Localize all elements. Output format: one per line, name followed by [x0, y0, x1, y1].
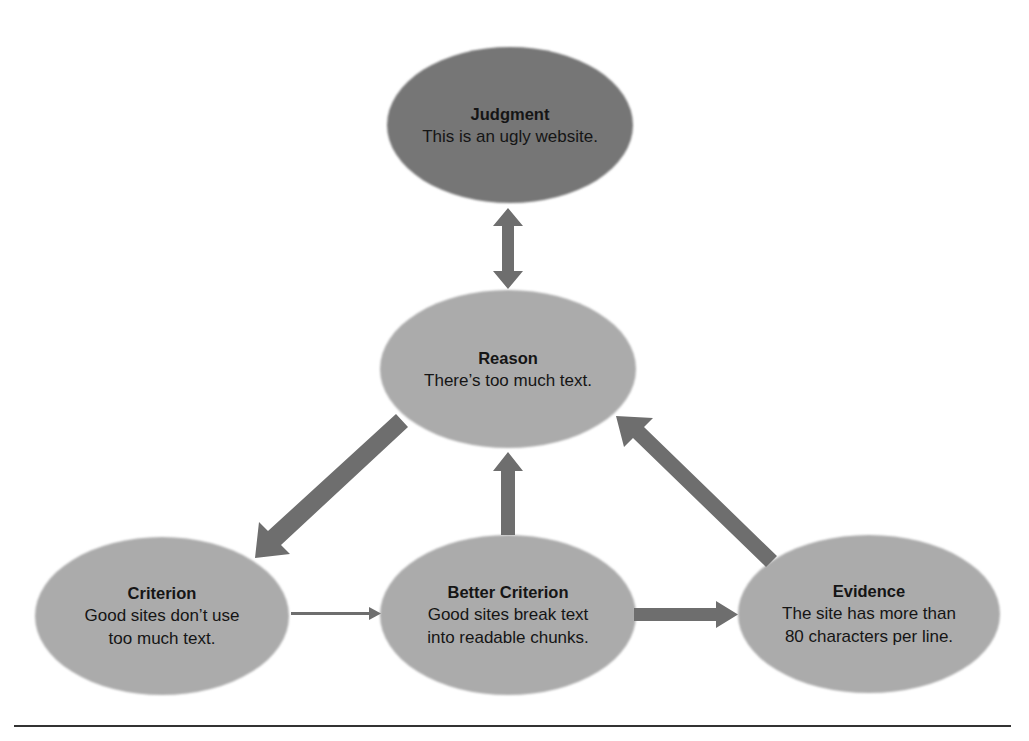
better-criterion-title: Better Criterion: [447, 581, 568, 603]
arrow-criterion-to-better-icon: [291, 607, 381, 620]
bottom-divider: [14, 725, 1011, 727]
evidence-text-line-1: The site has more than: [782, 602, 956, 625]
better-criterion-text-line-2: into readable chunks.: [427, 626, 589, 649]
evidence-text-line-2: 80 characters per line.: [785, 625, 953, 648]
evidence-node: Evidence The site has more than 80 chara…: [738, 535, 1000, 693]
better-criterion-node: Better Criterion Good sites break text i…: [380, 535, 636, 695]
judgment-node: Judgment This is an ugly website.: [387, 47, 633, 203]
judgment-text: This is an ugly website.: [422, 125, 598, 148]
criterion-text-line-2: too much text.: [109, 627, 216, 650]
reason-title: Reason: [478, 347, 538, 369]
criterion-node: Criterion Good sites don’t use too much …: [35, 537, 289, 695]
criterion-title: Criterion: [128, 582, 197, 604]
reason-text: There’s too much text.: [424, 369, 592, 392]
criterion-text-line-1: Good sites don’t use: [85, 604, 240, 627]
arrow-better-to-reason-icon: [493, 452, 523, 535]
arrow-better-to-evidence-icon: [634, 601, 738, 628]
judgment-title: Judgment: [471, 103, 550, 125]
evidence-title: Evidence: [833, 580, 905, 602]
better-criterion-text-line-1: Good sites break text: [428, 603, 589, 626]
double-arrow-icon: [493, 208, 523, 289]
reason-node: Reason There’s too much text.: [380, 290, 636, 448]
